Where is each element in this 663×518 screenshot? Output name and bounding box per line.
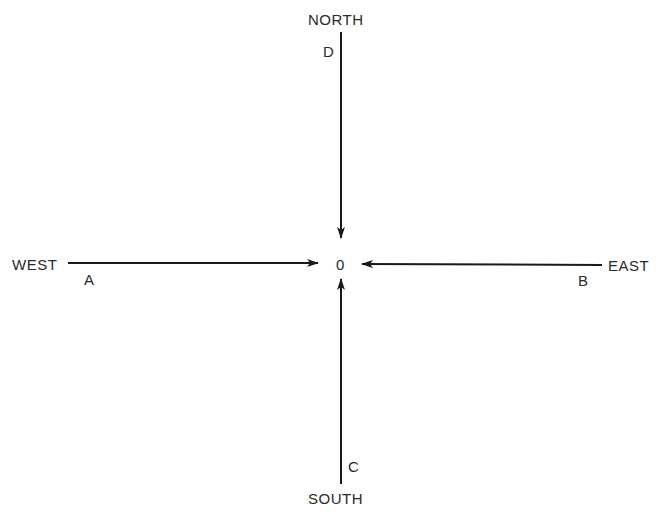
label-east: EAST xyxy=(608,258,649,273)
point-origin: 0 xyxy=(336,257,344,272)
arrows-canvas xyxy=(0,0,663,518)
compass-diagram: NORTH D WEST A 0 EAST B C SOUTH xyxy=(0,0,663,518)
point-d: D xyxy=(323,44,334,59)
label-north: NORTH xyxy=(308,12,364,27)
point-b: B xyxy=(578,273,588,288)
point-c: C xyxy=(348,459,359,474)
point-a: A xyxy=(84,272,94,287)
arrow-east-to-origin xyxy=(362,264,602,265)
label-west: WEST xyxy=(12,257,57,272)
label-south: SOUTH xyxy=(308,491,363,506)
